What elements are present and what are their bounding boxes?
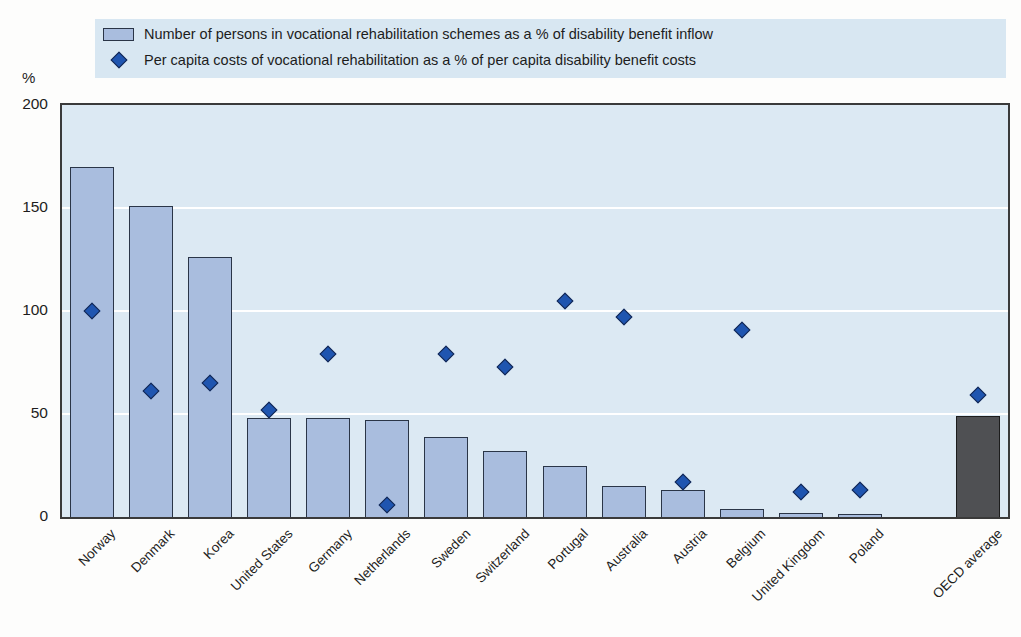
x-label-norway: Norway [75,526,118,569]
bar-portugal [543,466,587,518]
legend-label-bars: Number of persons in vocational rehabili… [144,26,713,42]
bar-denmark [129,206,173,517]
bar-germany [306,418,350,517]
bar-united-kingdom [779,513,823,517]
vocational-rehabilitation-chart: Number of persons in vocational rehabili… [0,0,1021,637]
marker-poland [852,482,869,499]
marker-belgium [733,321,750,338]
marker-oecd-average [970,387,987,404]
bar-belgium [720,509,764,517]
marker-switzerland [497,358,514,375]
bar-switzerland [483,451,527,517]
marker-united-kingdom [793,484,810,501]
marker-austria [674,473,691,490]
legend-label-diamonds: Per capita costs of vocational rehabilit… [144,52,696,68]
legend: Number of persons in vocational rehabili… [95,19,1006,78]
diamond-icon [103,54,134,66]
x-label-portugal: Portugal [545,526,591,572]
y-tick-0: 0 [39,507,48,525]
marker-germany [320,346,337,363]
y-axis: 050100150200 [0,103,52,519]
bar-poland [838,514,882,517]
y-axis-unit-label: % [22,69,35,86]
bar-sweden [424,437,468,517]
y-tick-100: 100 [22,301,48,319]
x-label-australia: Australia [603,526,651,574]
x-label-switzerland: Switzerland [472,526,532,586]
marker-portugal [556,292,573,309]
bar-swatch-icon [103,28,134,41]
plot-area [60,103,1010,519]
x-label-korea: Korea [200,526,236,562]
x-label-netherlands: Netherlands [352,526,414,588]
x-label-germany: Germany [305,526,355,576]
x-label-oecd-average: OECD average [930,526,1005,601]
bar-australia [602,486,646,517]
x-label-austria: Austria [669,526,709,566]
legend-item-bars: Number of persons in vocational rehabili… [103,24,713,44]
marker-united-states [260,401,277,418]
x-label-denmark: Denmark [128,526,177,575]
bar-austria [661,490,705,517]
y-tick-50: 50 [31,404,48,422]
bar-united-states [247,418,291,517]
marker-sweden [438,346,455,363]
x-axis: NorwayDenmarkKoreaUnited StatesGermanyNe… [60,521,1010,637]
x-label-sweden: Sweden [428,526,473,571]
y-tick-200: 200 [22,95,48,113]
x-label-poland: Poland [846,526,886,566]
bar-oecd-average [956,416,1000,517]
gridline-150 [62,207,1008,209]
x-label-united-states: United States [228,526,296,594]
y-tick-150: 150 [22,198,48,216]
x-label-belgium: Belgium [723,526,768,571]
bar-norway [70,167,114,517]
legend-item-diamonds: Per capita costs of vocational rehabilit… [103,50,696,70]
